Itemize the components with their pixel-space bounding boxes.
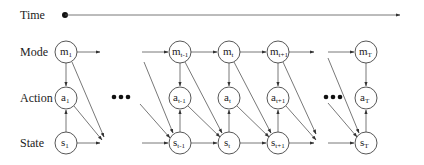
node-m-t: mt [218, 41, 240, 63]
ellipsis-left [112, 95, 131, 100]
node-a-t-1: at-1 [169, 87, 191, 109]
node-s-t-1: st-1 [169, 132, 191, 154]
node-s-T: sT [355, 132, 377, 154]
edges-into-col-t-1 [140, 52, 173, 143]
node-a-1: a1 [55, 87, 77, 109]
node-m-t-1: mt-1 [169, 41, 191, 63]
graphical-model-diagram: Time Mode Action State [0, 0, 424, 165]
ellipsis-right [324, 95, 343, 100]
time-row-label: Time [20, 8, 45, 22]
node-m-T: mT [355, 41, 377, 63]
node-a-t: at [218, 87, 240, 109]
node-m-1: m1 [55, 41, 77, 63]
time-axis [62, 12, 400, 18]
node-s-t+1: st+1 [267, 132, 289, 154]
node-a-t+1: at+1 [267, 87, 289, 109]
action-row-label: Action [20, 91, 53, 105]
node-s-1: s1 [55, 132, 77, 154]
node-a-T: aT [355, 87, 377, 109]
node-m-t+1: mt+1 [267, 41, 289, 63]
node-s-t: st [218, 132, 240, 154]
state-row-label: State [20, 136, 44, 150]
mode-row-label: Mode [20, 45, 48, 59]
